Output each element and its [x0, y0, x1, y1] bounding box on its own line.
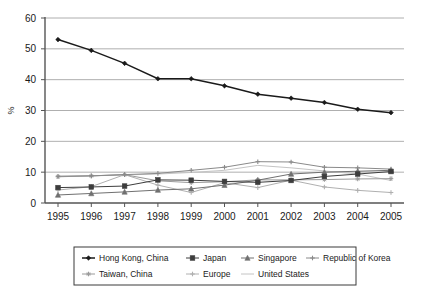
data-point	[156, 178, 161, 183]
data-point	[322, 174, 327, 179]
legend-label: Republic of Korea	[323, 253, 391, 263]
data-point	[389, 110, 394, 115]
data-point	[289, 160, 294, 165]
legend-label: Singapore	[258, 253, 297, 263]
legend-label: Japan	[203, 253, 226, 263]
y-tick-label: 30	[25, 105, 37, 116]
data-point	[122, 61, 127, 66]
x-tick-label: 1996	[80, 211, 103, 222]
data-point	[189, 178, 194, 183]
data-point	[86, 272, 91, 277]
data-point	[389, 169, 394, 174]
y-tick-label: 0	[30, 198, 36, 209]
x-tick-label: 2003	[313, 211, 336, 222]
data-point	[222, 179, 227, 184]
line-chart: 0102030405060%19951996199719981999200020…	[0, 0, 429, 297]
y-tick-label: 10	[25, 167, 37, 178]
data-point	[256, 185, 261, 190]
y-tick-label: 50	[25, 43, 37, 54]
data-point	[289, 96, 294, 101]
x-tick-label: 2005	[380, 211, 403, 222]
data-point	[355, 188, 360, 193]
data-point	[389, 176, 394, 181]
legend-label: United States	[258, 269, 309, 279]
x-tick-label: 1997	[113, 211, 136, 222]
data-point	[122, 184, 127, 189]
data-point	[355, 172, 360, 177]
x-tick-label: 1995	[47, 211, 70, 222]
x-tick-label: 2002	[280, 211, 303, 222]
y-tick-label: 60	[25, 13, 37, 24]
legend: Hong Kong, ChinaJapanSingaporeRepublic o…	[74, 247, 391, 285]
data-point	[222, 84, 227, 89]
data-point	[56, 185, 61, 190]
data-point	[289, 178, 294, 183]
data-point	[190, 256, 195, 261]
data-point	[389, 190, 394, 195]
legend-label: Europe	[203, 269, 231, 279]
chart-container: 0102030405060%19951996199719981999200020…	[0, 0, 429, 297]
x-tick-label: 2001	[247, 211, 270, 222]
data-point	[89, 185, 94, 190]
series-line	[58, 40, 391, 113]
data-point	[189, 76, 194, 81]
data-point	[256, 92, 261, 97]
y-tick-label: 40	[25, 74, 37, 85]
data-point	[322, 100, 327, 105]
x-tick-label: 1999	[180, 211, 203, 222]
x-tick-label: 1998	[147, 211, 170, 222]
legend-label: Taiwan, China	[99, 269, 153, 279]
data-point	[222, 165, 227, 170]
x-tick-label: 2004	[347, 211, 370, 222]
data-point	[156, 76, 161, 81]
data-point	[256, 159, 261, 164]
y-tick-label: 20	[25, 136, 37, 147]
legend-label: Hong Kong, China	[99, 253, 169, 263]
data-point	[322, 185, 327, 190]
grid-lines	[45, 18, 404, 172]
data-point	[256, 180, 261, 185]
y-axis-title: %	[6, 106, 16, 114]
data-point	[355, 177, 360, 182]
data-point	[56, 37, 61, 42]
x-tick-label: 2000	[213, 211, 236, 222]
